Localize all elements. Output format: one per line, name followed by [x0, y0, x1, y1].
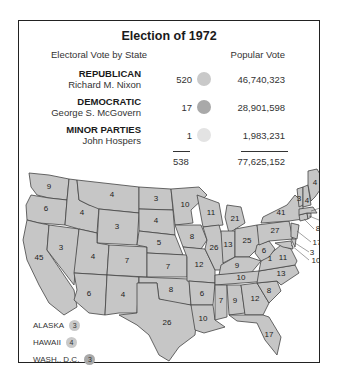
svg-text:12: 12 — [251, 294, 260, 303]
svg-text:10: 10 — [199, 314, 208, 323]
svg-text:8: 8 — [190, 232, 195, 241]
party-name: MINOR PARTIES — [66, 125, 141, 136]
svg-text:13: 13 — [224, 240, 233, 249]
svg-text:3: 3 — [297, 194, 302, 203]
electoral-vote-count: 1 — [154, 130, 192, 141]
svg-text:9: 9 — [47, 182, 52, 191]
svg-text:13: 13 — [277, 269, 286, 278]
legend-hawaii: HAWAII 4 — [33, 337, 77, 348]
electoral-total-rule — [173, 151, 190, 152]
svg-text:25: 25 — [243, 236, 252, 245]
svg-text:9: 9 — [233, 296, 238, 305]
svg-text:4: 4 — [110, 190, 115, 199]
popular-vote-count: 46,740,323 — [237, 74, 285, 85]
electoral-vote-header: Electoral Vote by State — [51, 49, 147, 60]
svg-text:8: 8 — [169, 285, 174, 294]
candidate-name: George S. McGovern — [51, 108, 141, 119]
svg-text:10: 10 — [181, 200, 190, 209]
svg-text:4: 4 — [121, 290, 126, 299]
party-name: DEMOCRATIC — [51, 97, 141, 108]
legend-value-badge: 3 — [69, 320, 80, 331]
svg-text:4: 4 — [313, 178, 318, 187]
legend-value-badge: 4 — [66, 337, 77, 348]
svg-text:27: 27 — [271, 226, 280, 235]
candidate-name: John Hospers — [66, 136, 141, 147]
popular-total-rule — [241, 151, 288, 152]
map-title: Election of 1972 — [19, 29, 319, 43]
svg-text:8: 8 — [267, 286, 272, 295]
svg-text:10: 10 — [312, 256, 319, 265]
legend-value-badge: 3 — [84, 354, 95, 365]
party-name: REPUBLICAN — [68, 69, 141, 80]
svg-text:26: 26 — [210, 243, 219, 252]
svg-text:17: 17 — [313, 238, 319, 247]
svg-text:1: 1 — [268, 254, 273, 263]
svg-text:4: 4 — [91, 252, 96, 261]
svg-text:6: 6 — [44, 204, 49, 213]
svg-text:7: 7 — [219, 296, 224, 305]
svg-text:10: 10 — [237, 273, 246, 282]
legend-dc: WASH., D.C. 3 — [33, 354, 95, 365]
legend-label: HAWAII — [33, 338, 61, 347]
us-map-svg: 9 6 45 3 4 4 3 4 6 7 4 3 4 5 7 8 26 10 8… — [19, 165, 319, 365]
svg-text:11: 11 — [279, 253, 288, 262]
party-row-democratic: DEMOCRATIC George S. McGovern 17 28,901,… — [19, 97, 319, 123]
party-label: REPUBLICAN Richard M. Nixon — [68, 69, 141, 90]
republican-color-swatch — [197, 72, 211, 86]
svg-text:12: 12 — [195, 260, 204, 269]
svg-text:3: 3 — [59, 243, 64, 252]
svg-text:7: 7 — [166, 262, 171, 271]
svg-text:7: 7 — [125, 256, 130, 265]
svg-text:4: 4 — [154, 216, 159, 225]
electoral-vote-count: 520 — [154, 74, 192, 85]
svg-text:41: 41 — [277, 208, 286, 217]
svg-text:8: 8 — [316, 224, 319, 233]
svg-text:17: 17 — [265, 330, 274, 339]
svg-text:3: 3 — [154, 194, 159, 203]
party-label: DEMOCRATIC George S. McGovern — [51, 97, 141, 118]
democratic-color-swatch — [197, 100, 211, 114]
svg-text:4: 4 — [305, 196, 310, 205]
svg-text:26: 26 — [163, 318, 172, 327]
candidate-name: Richard M. Nixon — [68, 80, 141, 91]
svg-text:45: 45 — [35, 253, 44, 262]
popular-vote-header: Popular Vote — [231, 49, 285, 60]
svg-text:6: 6 — [87, 289, 92, 298]
legend-label: ALASKA — [33, 321, 64, 330]
legend-label: WASH., D.C. — [33, 355, 79, 364]
popular-vote-count: 1,983,231 — [243, 130, 285, 141]
svg-text:11: 11 — [207, 208, 216, 217]
electoral-vote-count: 17 — [154, 102, 192, 113]
election-map-frame: Election of 1972 Electoral Vote by State… — [18, 20, 320, 363]
svg-text:21: 21 — [231, 214, 240, 223]
popular-vote-count: 28,901,598 — [237, 102, 285, 113]
svg-text:9: 9 — [235, 261, 240, 270]
svg-text:4: 4 — [80, 208, 85, 217]
svg-text:3: 3 — [115, 222, 120, 231]
svg-text:6: 6 — [200, 289, 205, 298]
svg-text:5: 5 — [157, 238, 162, 247]
party-label: MINOR PARTIES John Hospers — [66, 125, 141, 146]
minor-party-color-swatch — [197, 128, 211, 142]
svg-text:6: 6 — [262, 246, 267, 255]
party-row-minor: MINOR PARTIES John Hospers 1 1,983,231 — [19, 125, 319, 151]
state-nj — [291, 223, 299, 239]
party-row-republican: REPUBLICAN Richard M. Nixon 520 46,740,3… — [19, 69, 319, 95]
legend-alaska: ALASKA 3 — [33, 320, 80, 331]
